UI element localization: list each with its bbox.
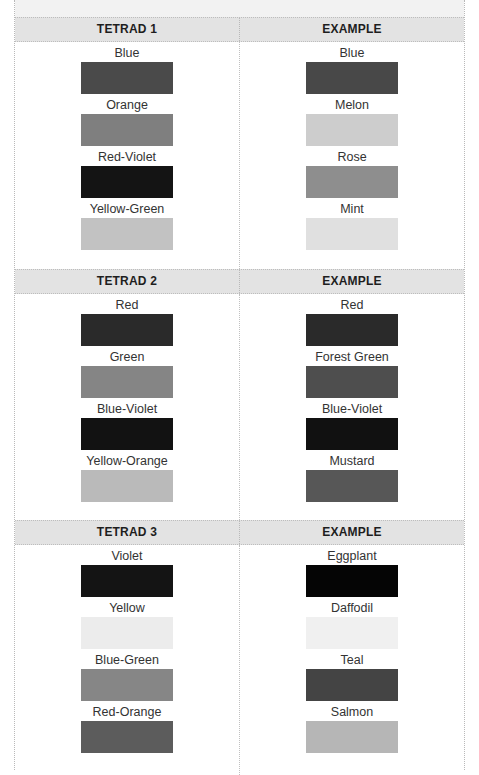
tetrad-header: TETRAD 3: [15, 521, 239, 544]
color-label: Yellow-Green: [90, 200, 165, 218]
color-label: Blue-Green: [95, 651, 159, 669]
color-item: Blue: [15, 42, 239, 94]
color-label: Red: [116, 296, 139, 314]
color-label: Mustard: [329, 452, 374, 470]
color-item: Rose: [240, 146, 464, 198]
color-label: Blue-Violet: [322, 400, 382, 418]
color-label: Green: [110, 348, 145, 366]
tetrad-column: Blue Orange Red-Violet Yellow-Green: [15, 42, 239, 269]
color-item: Blue-Violet: [240, 398, 464, 450]
color-label: Yellow-Orange: [86, 452, 168, 470]
color-swatch: [306, 565, 398, 597]
color-swatch: [306, 721, 398, 753]
tetrad-color-table: TETRAD 1 EXAMPLE Blue Orange Red-Violet …: [14, 0, 465, 770]
color-label: Red-Violet: [98, 148, 156, 166]
color-swatch: [306, 669, 398, 701]
color-item: Blue: [240, 42, 464, 94]
color-item: Green: [15, 346, 239, 398]
color-item: Blue-Green: [15, 649, 239, 701]
example-header: EXAMPLE: [239, 270, 464, 293]
color-swatch: [306, 314, 398, 346]
color-label: Yellow: [109, 599, 145, 617]
color-item: Eggplant: [240, 545, 464, 597]
color-item: Teal: [240, 649, 464, 701]
color-label: Red: [341, 296, 364, 314]
color-item: Red: [240, 294, 464, 346]
color-swatch: [81, 617, 173, 649]
color-item: Yellow: [15, 597, 239, 649]
color-label: Mint: [340, 200, 364, 218]
example-column: Red Forest Green Blue-Violet Mustard: [239, 294, 464, 520]
color-item: Salmon: [240, 701, 464, 753]
color-label: Blue-Violet: [97, 400, 157, 418]
color-label: Blue: [114, 44, 139, 62]
tetrad-column: Violet Yellow Blue-Green Red-Orange: [15, 545, 239, 775]
color-item: Red: [15, 294, 239, 346]
color-item: Yellow-Orange: [15, 450, 239, 502]
section-header: TETRAD 3 EXAMPLE: [15, 520, 464, 545]
example-column: Blue Melon Rose Mint: [239, 42, 464, 269]
color-swatch: [306, 62, 398, 94]
tetrad-column: Red Green Blue-Violet Yellow-Orange: [15, 294, 239, 520]
example-header: EXAMPLE: [239, 521, 464, 544]
color-label: Daffodil: [331, 599, 373, 617]
color-item: Red-Violet: [15, 146, 239, 198]
color-label: Melon: [335, 96, 369, 114]
color-swatch: [81, 366, 173, 398]
color-swatch: [81, 721, 173, 753]
color-swatch: [81, 114, 173, 146]
color-item: Violet: [15, 545, 239, 597]
color-swatch: [81, 218, 173, 250]
color-swatch: [81, 62, 173, 94]
color-swatch: [306, 218, 398, 250]
color-item: Red-Orange: [15, 701, 239, 753]
color-label: Forest Green: [315, 348, 389, 366]
color-item: Blue-Violet: [15, 398, 239, 450]
color-label: Blue: [339, 44, 364, 62]
color-label: Salmon: [331, 703, 373, 721]
color-item: Mustard: [240, 450, 464, 502]
color-item: Yellow-Green: [15, 198, 239, 250]
color-swatch: [306, 470, 398, 502]
tetrad-header: TETRAD 2: [15, 270, 239, 293]
color-swatch: [306, 418, 398, 450]
section-header: TETRAD 2 EXAMPLE: [15, 269, 464, 294]
color-swatch: [306, 166, 398, 198]
example-header: EXAMPLE: [239, 18, 464, 41]
example-column: Eggplant Daffodil Teal Salmon: [239, 545, 464, 775]
color-swatch: [81, 669, 173, 701]
color-swatch: [81, 470, 173, 502]
color-label: Eggplant: [327, 547, 376, 565]
color-label: Teal: [341, 651, 364, 669]
color-label: Rose: [337, 148, 366, 166]
color-item: Daffodil: [240, 597, 464, 649]
color-label: Orange: [106, 96, 148, 114]
color-swatch: [81, 565, 173, 597]
color-swatch: [81, 166, 173, 198]
color-swatch: [306, 617, 398, 649]
tetrad-header: TETRAD 1: [15, 18, 239, 41]
section-header: TETRAD 1 EXAMPLE: [15, 17, 464, 42]
top-band: [15, 0, 464, 18]
color-label: Violet: [111, 547, 142, 565]
color-swatch: [81, 314, 173, 346]
color-item: Forest Green: [240, 346, 464, 398]
color-label: Red-Orange: [93, 703, 162, 721]
color-swatch: [81, 418, 173, 450]
color-item: Mint: [240, 198, 464, 250]
color-item: Orange: [15, 94, 239, 146]
color-swatch: [306, 366, 398, 398]
color-item: Melon: [240, 94, 464, 146]
color-swatch: [306, 114, 398, 146]
